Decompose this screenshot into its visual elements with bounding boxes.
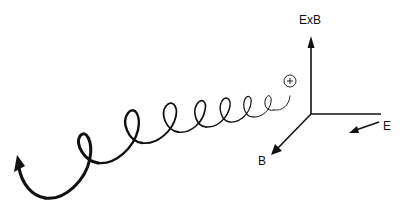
helical-trajectory bbox=[14, 96, 290, 199]
helix-loop-5 bbox=[142, 103, 178, 143]
coordinate-axes bbox=[271, 36, 381, 155]
e-drift-arrow bbox=[356, 122, 379, 130]
helix-final-sweep bbox=[19, 168, 45, 198]
b-axis bbox=[277, 114, 311, 149]
positive-charge-icon bbox=[284, 75, 296, 87]
helix-loop-4 bbox=[178, 101, 206, 133]
exb-axis-label: ExB bbox=[299, 14, 321, 26]
helix-tail bbox=[274, 96, 290, 110]
e-axis-label: E bbox=[383, 120, 391, 132]
helix-loop-1 bbox=[253, 96, 274, 117]
b-axis-label: B bbox=[258, 155, 266, 167]
helix-loop-7 bbox=[45, 134, 98, 199]
diagram-canvas bbox=[0, 0, 409, 207]
e-drift-arrowhead-icon bbox=[349, 126, 359, 133]
exb-arrowhead-icon bbox=[308, 36, 315, 48]
helix-loop-2 bbox=[230, 96, 253, 122]
helix-loop-6 bbox=[98, 110, 142, 163]
helix-loop-3 bbox=[206, 98, 230, 127]
